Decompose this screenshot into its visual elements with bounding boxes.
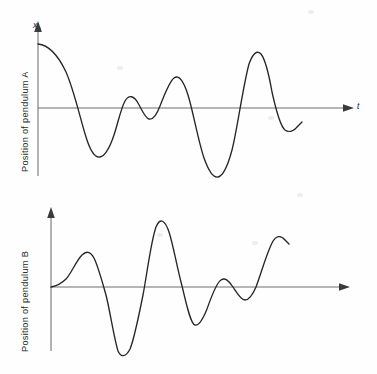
x-axis-arrowhead-b: [339, 283, 350, 291]
y-axis-arrowhead-a: [34, 21, 42, 32]
scan-speck: [157, 233, 163, 237]
scan-speck: [252, 241, 258, 245]
chart-svg-pendulum-a: [0, 0, 377, 190]
figure-coupled-pendulum-graphs: Position of pendulum A xA t Position of …: [0, 0, 377, 374]
chart-panel-pendulum-a: Position of pendulum A xA t: [0, 0, 377, 190]
scan-speck: [117, 66, 123, 70]
chart-svg-pendulum-b: [0, 185, 377, 374]
y-axis-arrowhead-b: [47, 207, 55, 218]
x-axis-arrowhead-a: [343, 104, 354, 112]
curve-pendulum-b: [51, 221, 289, 356]
chart-panel-pendulum-b: Position of pendulum B xB t: [0, 185, 377, 374]
scan-speck: [297, 193, 303, 197]
scan-speck: [308, 10, 314, 14]
scan-speck: [268, 116, 274, 120]
curve-pendulum-a: [38, 44, 302, 177]
